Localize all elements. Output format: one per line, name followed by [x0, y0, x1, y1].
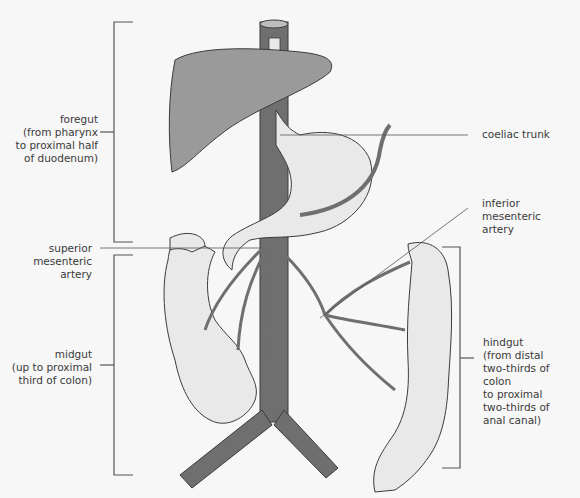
- midgut-label: midgut (up to proximal third of colon): [0, 348, 92, 387]
- foregut-label: foregut (from pharynx to proximal half o…: [0, 113, 98, 165]
- hindgut-label: hindgut (from distal two-thirds of colon…: [483, 336, 580, 427]
- coeliac-trunk-label: coeliac trunk: [482, 128, 550, 141]
- superior-mesenteric-artery-label: superior mesenteric artery: [0, 242, 92, 281]
- inferior-mesenteric-artery-label: inferior mesenteric artery: [482, 197, 541, 236]
